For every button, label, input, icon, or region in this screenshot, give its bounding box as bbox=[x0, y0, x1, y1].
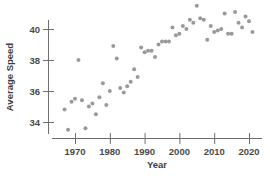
data-point bbox=[157, 43, 161, 47]
x-tick-label: 2010 bbox=[204, 146, 225, 157]
data-point bbox=[240, 25, 244, 29]
data-point bbox=[230, 32, 234, 36]
y-axis-ticks: 34363840 bbox=[29, 24, 54, 128]
data-point bbox=[216, 29, 220, 33]
data-point bbox=[167, 39, 171, 43]
y-tick-label: 38 bbox=[29, 55, 40, 66]
data-point bbox=[205, 38, 209, 42]
x-tick-label: 1990 bbox=[134, 146, 155, 157]
data-point bbox=[170, 25, 174, 29]
data-point bbox=[198, 16, 202, 20]
data-point bbox=[244, 15, 248, 19]
data-point bbox=[237, 21, 241, 25]
data-point bbox=[177, 32, 181, 36]
x-axis-ticks: 197019801990200020102020 bbox=[64, 133, 259, 157]
y-tick-label: 40 bbox=[29, 24, 40, 35]
data-point bbox=[108, 89, 112, 93]
y-tick-label: 34 bbox=[29, 117, 40, 128]
data-point bbox=[209, 24, 213, 28]
x-tick-label: 2020 bbox=[238, 146, 259, 157]
data-point bbox=[70, 100, 74, 104]
data-point bbox=[66, 128, 70, 132]
data-point bbox=[90, 101, 94, 105]
data-point bbox=[87, 105, 91, 109]
data-point bbox=[125, 84, 129, 88]
data-point bbox=[129, 80, 133, 84]
data-point bbox=[83, 126, 87, 130]
x-axis-title: Year bbox=[147, 159, 167, 170]
x-tick-label: 1970 bbox=[64, 146, 85, 157]
data-point bbox=[250, 30, 254, 34]
plot-canvas: 34363840 197019801990200020102020 Year A… bbox=[0, 0, 270, 179]
data-point bbox=[174, 33, 178, 37]
data-points-layer bbox=[63, 4, 255, 132]
data-point bbox=[76, 58, 80, 62]
data-point bbox=[94, 112, 98, 116]
data-point bbox=[160, 39, 164, 43]
data-point bbox=[139, 46, 143, 50]
data-point bbox=[212, 30, 216, 34]
data-point bbox=[184, 27, 188, 31]
data-point bbox=[202, 18, 206, 22]
x-tick-label: 1980 bbox=[99, 146, 120, 157]
data-point bbox=[63, 108, 67, 112]
data-point bbox=[188, 18, 192, 22]
y-axis-title: Average Speed bbox=[4, 43, 15, 111]
data-point bbox=[150, 49, 154, 53]
scatter-plot-figure: 34363840 197019801990200020102020 Year A… bbox=[0, 0, 270, 179]
y-tick-label: 36 bbox=[29, 86, 40, 97]
data-point bbox=[146, 49, 150, 53]
data-point bbox=[191, 21, 195, 25]
data-point bbox=[219, 27, 223, 31]
data-point bbox=[132, 67, 136, 71]
data-point bbox=[153, 55, 157, 59]
data-point bbox=[80, 98, 84, 102]
data-point bbox=[226, 32, 230, 36]
data-point bbox=[195, 4, 199, 8]
data-point bbox=[223, 12, 227, 16]
data-point bbox=[104, 103, 108, 107]
data-point bbox=[181, 24, 185, 28]
x-tick-label: 2000 bbox=[169, 146, 190, 157]
data-point bbox=[115, 56, 119, 60]
data-point bbox=[118, 86, 122, 90]
data-point bbox=[136, 75, 140, 79]
data-point bbox=[97, 95, 101, 99]
data-point bbox=[111, 44, 115, 48]
data-point bbox=[247, 19, 251, 23]
data-point bbox=[163, 39, 167, 43]
data-point bbox=[233, 10, 237, 14]
data-point bbox=[73, 97, 77, 101]
data-point bbox=[143, 50, 147, 54]
data-point bbox=[122, 91, 126, 95]
data-point bbox=[101, 81, 105, 85]
